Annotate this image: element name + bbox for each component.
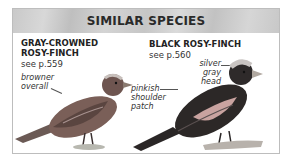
black-rosy-finch-illustration <box>133 53 280 154</box>
species-name: GRAY-CROWNED ROSY-FINCH <box>21 38 98 58</box>
header-band: SIMILAR SPECIES <box>13 9 279 33</box>
header-title: SIMILAR SPECIES <box>87 14 206 28</box>
species-name: BLACK ROSY-FINCH <box>149 39 241 49</box>
species-name-line1: GRAY-CROWNED <box>21 38 98 48</box>
gray-crowned-rosy-finch-illustration <box>13 57 143 154</box>
similar-species-card: SIMILAR SPECIES GRAY-CROWNED ROSY-FINCH … <box>12 8 280 154</box>
